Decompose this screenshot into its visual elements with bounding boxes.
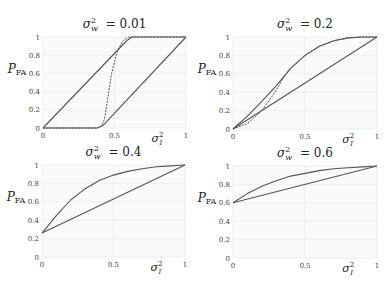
chart-title: σ2w = 0.6 — [277, 145, 333, 162]
x-tick-label: 0.5 — [299, 262, 310, 270]
y-tick-label: 0.6 — [219, 199, 231, 207]
chart-title: σ2w = 0.01 — [83, 16, 147, 33]
y-tick-label: 0.4 — [219, 89, 231, 97]
x-axis-label: σ2I — [151, 131, 163, 147]
y-tick-label: 0.4 — [219, 218, 231, 226]
x-tick-label: 1 — [375, 262, 379, 270]
y-tick-label: 0 — [226, 126, 230, 134]
x-tick-label: 1 — [375, 133, 379, 141]
y-tick-label: 0.8 — [219, 52, 230, 60]
x-axis-label: σ2I — [342, 261, 354, 277]
y-tick-label: 1 — [36, 34, 40, 42]
y-tick-label: 0.6 — [219, 70, 231, 78]
chart-panel-4: 00.20.40.60.8100.51σ2w = 0.6PFAσ2I — [197, 145, 380, 277]
y-tick-label: 0.8 — [29, 52, 40, 60]
chart-panel-3: 00.20.40.60.8100.51σ2w = 0.4PFAσ2I — [6, 144, 188, 276]
y-tick-label: 0 — [226, 255, 230, 263]
y-axis-label: PFA — [6, 190, 26, 205]
x-tick-label: 0.5 — [109, 132, 120, 140]
chart-title: σ2w = 0.2 — [277, 16, 333, 33]
x-tick-label: 0.5 — [299, 133, 310, 141]
y-tick-label: 1 — [226, 163, 230, 171]
y-tick-label: 0.4 — [28, 217, 40, 225]
x-axis-label: σ2I — [150, 260, 162, 276]
y-tick-label: 0.6 — [28, 198, 40, 206]
x-tick-label: 0 — [231, 133, 235, 141]
y-tick-label: 0.8 — [28, 180, 39, 188]
y-tick-label: 0 — [36, 125, 40, 133]
y-tick-label: 0.4 — [29, 88, 41, 96]
chart-panel-2: 00.20.40.60.8100.51σ2w = 0.2PFAσ2I — [197, 16, 380, 148]
y-tick-label: 0.2 — [28, 235, 39, 243]
y-tick-label: 1 — [35, 162, 39, 170]
chart-panel-1: 00.20.40.60.8100.51σ2w = 0.01PFAσ2I — [7, 16, 189, 147]
y-tick-label: 0.2 — [219, 107, 230, 115]
y-tick-label: 0 — [35, 254, 39, 262]
y-axis-label: PFA — [7, 62, 27, 77]
chart-figure: 00.20.40.60.8100.51σ2w = 0.01PFAσ2I00.20… — [0, 0, 390, 284]
x-tick-label: 1 — [183, 261, 187, 269]
y-tick-label: 0.6 — [29, 70, 41, 78]
y-tick-label: 0.8 — [219, 181, 230, 189]
x-tick-label: 0.5 — [108, 261, 119, 269]
y-tick-label: 1 — [226, 34, 230, 42]
y-tick-label: 0.2 — [219, 236, 230, 244]
x-tick-label: 1 — [184, 132, 188, 140]
x-tick-label: 0 — [41, 132, 45, 140]
x-tick-label: 0 — [40, 261, 44, 269]
x-axis-label: σ2I — [342, 132, 354, 148]
chart-title: σ2w = 0.4 — [86, 144, 142, 161]
y-axis-label: PFA — [197, 191, 217, 206]
y-tick-label: 0.2 — [29, 106, 40, 114]
y-axis-label: PFA — [197, 62, 217, 77]
x-tick-label: 0 — [231, 262, 235, 270]
